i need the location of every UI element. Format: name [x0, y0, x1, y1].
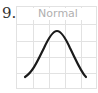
normal-curve — [25, 31, 86, 77]
chart-title: Normal — [30, 8, 86, 20]
